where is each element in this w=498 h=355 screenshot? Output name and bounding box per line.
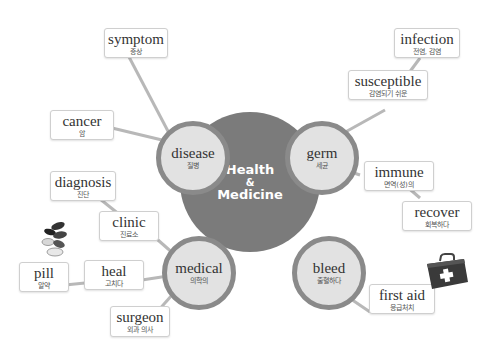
- word-en: clinic: [100, 214, 158, 230]
- word-ko: 외과 의사: [111, 325, 169, 336]
- word-en: infection: [395, 31, 459, 47]
- word-symptom: symptom 증상: [104, 28, 168, 58]
- first-aid-kit-icon: [424, 252, 470, 292]
- word-clinic: clinic 진료소: [99, 211, 159, 241]
- subtopic-ko: 의학의: [190, 276, 208, 287]
- word-en: pill: [20, 265, 68, 281]
- word-ko: 증상: [105, 47, 167, 58]
- word-en: recover: [403, 204, 471, 220]
- subtopic-medical: medical 의학의: [162, 236, 236, 310]
- subtopic-en: germ: [307, 145, 338, 161]
- word-en: surgeon: [111, 309, 169, 325]
- word-ko: 회복하다: [403, 220, 471, 231]
- word-infection: infection 전염, 감염: [394, 28, 460, 58]
- subtopic-ko: 출혈하다: [317, 276, 341, 287]
- word-ko: 응급처치: [370, 303, 434, 314]
- word-ko: 암: [51, 129, 113, 140]
- center-ampersand: &: [246, 177, 255, 188]
- subtopic-en: bleed: [313, 260, 345, 276]
- word-pill: pill 알약: [19, 262, 69, 292]
- word-cancer: cancer 암: [50, 110, 114, 140]
- subtopic-ko: 질병: [187, 161, 199, 172]
- subtopic-disease: disease 질병: [156, 121, 230, 195]
- word-en: diagnosis: [51, 174, 115, 190]
- word-susceptible: susceptible 감염되기 쉬운: [348, 70, 428, 100]
- word-recover: recover 회복하다: [402, 201, 472, 231]
- word-ko: 감염되기 쉬운: [349, 89, 427, 100]
- word-en: immune: [365, 164, 433, 180]
- subtopic-bleed: bleed 출혈하다: [292, 236, 366, 310]
- word-en: symptom: [105, 31, 167, 47]
- subtopic-germ: germ 세균: [285, 121, 359, 195]
- subtopic-ko: 세균: [316, 161, 328, 172]
- word-immune: immune 면역(성)의: [364, 161, 434, 191]
- subtopic-en: disease: [171, 145, 214, 161]
- word-ko: 진단: [51, 190, 115, 201]
- center-title-1: Health: [226, 163, 274, 177]
- word-ko: 알약: [20, 281, 68, 292]
- word-en: heal: [85, 263, 143, 279]
- word-ko: 진료소: [100, 230, 158, 241]
- word-en: susceptible: [349, 73, 427, 89]
- word-heal: heal 고치다: [84, 260, 144, 290]
- word-ko: 고치다: [85, 279, 143, 290]
- word-surgeon: surgeon 외과 의사: [110, 306, 170, 337]
- word-diagnosis: diagnosis 진단: [50, 171, 116, 201]
- center-title-2: Medicine: [217, 188, 283, 202]
- pills-icon: [38, 220, 72, 258]
- subtopic-en: medical: [175, 260, 222, 276]
- word-ko: 전염, 감염: [395, 47, 459, 58]
- word-en: cancer: [51, 113, 113, 129]
- word-ko: 면역(성)의: [365, 180, 433, 191]
